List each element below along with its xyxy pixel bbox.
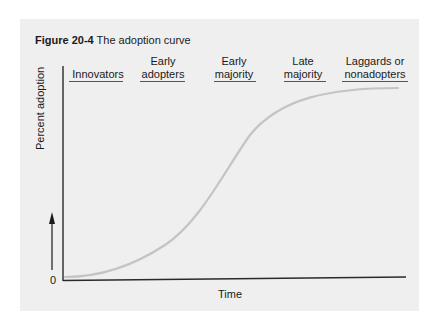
y-axis-label: Percent adoption bbox=[34, 67, 46, 150]
adoption-curve bbox=[65, 88, 398, 277]
y-arrow-icon bbox=[49, 212, 55, 270]
x-axis bbox=[63, 277, 406, 281]
plot-area bbox=[0, 0, 440, 326]
y-origin-label: 0 bbox=[50, 274, 56, 286]
x-axis-label: Time bbox=[218, 288, 242, 300]
